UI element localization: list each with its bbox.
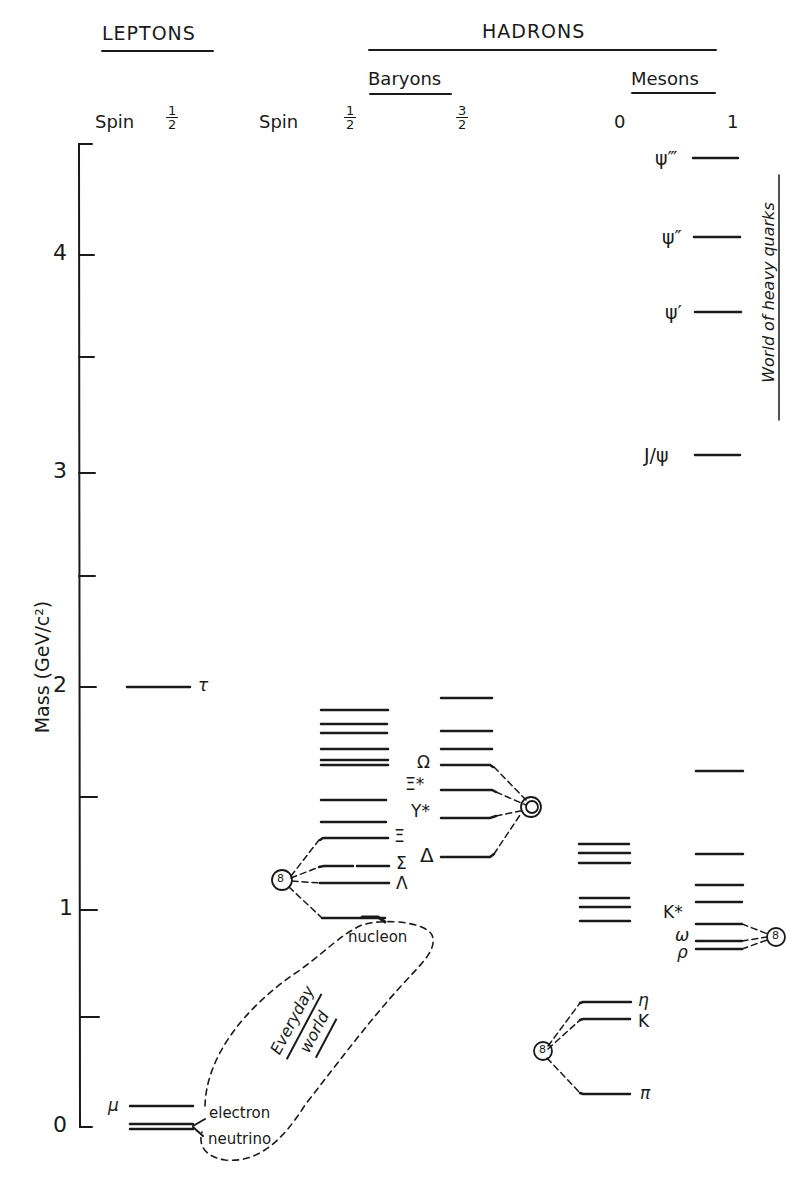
heavy-quarks-label: World of heavy quarks xyxy=(759,173,778,413)
baryon-half-levels xyxy=(319,710,389,922)
level-diagram-canvas xyxy=(0,0,808,1177)
xi-label: Ξ xyxy=(394,826,405,846)
meson-spin0-levels xyxy=(579,844,631,1094)
rho-label: ρ xyxy=(677,942,688,962)
mu-label: μ xyxy=(108,1095,119,1115)
tick-label-0: 0 xyxy=(53,1112,67,1137)
k-star-label: K* xyxy=(663,902,683,922)
k-label: K xyxy=(638,1011,649,1031)
spin-word: Spin xyxy=(95,111,134,132)
baryon-spin-three-half: 3 2 xyxy=(456,104,468,131)
fraction-denominator: 2 xyxy=(458,118,466,131)
hadrons-header: HADRONS xyxy=(482,20,585,42)
pseudoscalar-octet-symbol: 8 xyxy=(539,1043,546,1056)
lepton-spin-label: Spin xyxy=(95,111,134,132)
fraction-numerator: 3 xyxy=(456,104,468,118)
pi-label: π xyxy=(640,1083,650,1103)
tick-label-4: 4 xyxy=(53,240,67,265)
spin-word: Spin xyxy=(259,111,298,132)
xi-star-label: Ξ* xyxy=(405,774,424,794)
mass-axis-label: Mass (GeV/c²) xyxy=(31,567,53,767)
j-psi-label: J/ψ xyxy=(644,444,669,466)
omega-baryon-label: Ω xyxy=(417,752,430,772)
baryons-header: Baryons xyxy=(368,68,441,89)
baryon-spin-half: 1 2 xyxy=(344,104,356,131)
meson-spin0-label: 0 xyxy=(614,111,625,132)
leptons-header: LEPTONS xyxy=(102,22,196,44)
meson-spin1-label: 1 xyxy=(727,111,738,132)
psi-triple-prime-label: ψ‴ xyxy=(655,147,677,169)
lambda-label: Λ xyxy=(396,873,408,893)
fraction-numerator: 1 xyxy=(166,104,178,118)
tick-label-2: 2 xyxy=(53,672,67,697)
fraction-numerator: 1 xyxy=(344,104,356,118)
fraction-denominator: 2 xyxy=(346,118,354,131)
lepton-levels xyxy=(127,687,205,1136)
baryon-three-half-levels xyxy=(441,698,496,857)
vector-octet-symbol: 8 xyxy=(772,929,779,942)
eta-label: η xyxy=(638,990,649,1010)
tau-label: τ xyxy=(198,675,208,695)
psi-prime-label: ψ′ xyxy=(665,301,682,323)
meson-spin1-levels xyxy=(693,158,743,949)
tick-label-1: 1 xyxy=(59,895,73,920)
electron-label: electron xyxy=(209,1104,270,1122)
delta-label: Δ xyxy=(420,843,434,867)
neutrino-label: neutrino xyxy=(208,1130,271,1148)
psi-double-prime-label: ψ″ xyxy=(662,226,682,248)
fraction-denominator: 2 xyxy=(168,118,176,131)
nucleon-label: nucleon xyxy=(348,928,407,946)
lepton-spin-fraction: 1 2 xyxy=(166,104,178,131)
sigma-label: Σ xyxy=(396,853,407,873)
baryon-spin-label: Spin xyxy=(259,111,298,132)
mass-axis xyxy=(79,144,99,1127)
y-star-label: Y* xyxy=(411,801,430,821)
tick-label-3: 3 xyxy=(53,458,67,483)
baryon-octet-symbol: 8 xyxy=(277,872,284,885)
mesons-header: Mesons xyxy=(631,68,699,89)
